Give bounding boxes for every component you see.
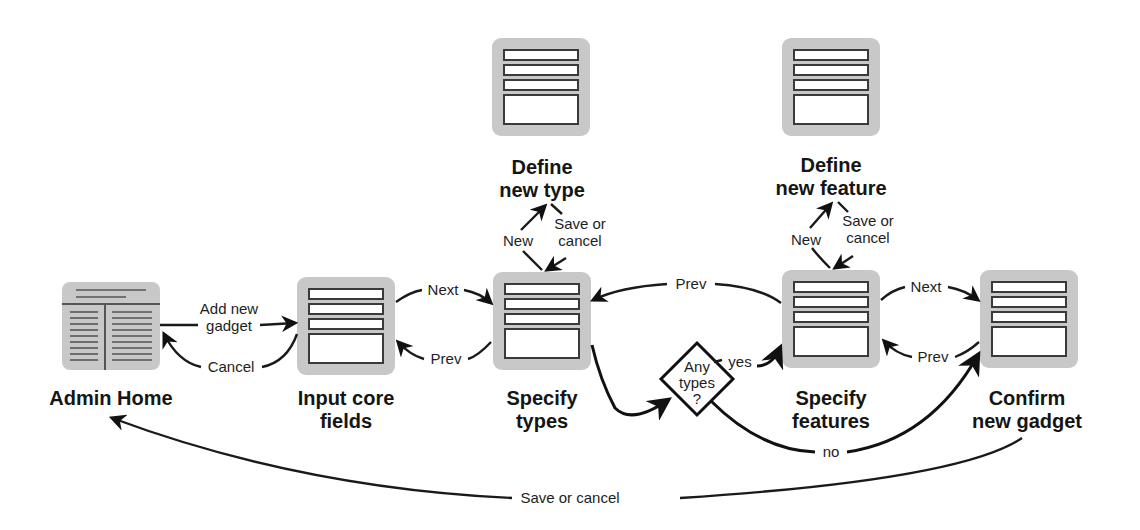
decision-label-line1: Any (684, 358, 710, 375)
edge-next-1: Next (396, 281, 491, 303)
edge-label: Next (911, 278, 943, 295)
node-define-new-type: Define new type (492, 38, 590, 201)
edge-label: Add new (200, 300, 259, 317)
edge-label: Prev (676, 275, 707, 292)
form-icon (980, 270, 1078, 368)
flow-diagram: Admin Home Input core fields Specify typ… (0, 0, 1140, 530)
edge-label: Prev (918, 348, 949, 365)
node-title-line2: fields (320, 410, 372, 432)
edge-label: Next (428, 281, 460, 298)
node-title-line1: Input core (298, 387, 395, 409)
edge-label: New (503, 232, 533, 249)
edge-label: Save or (842, 212, 894, 229)
edge-prev-2: Prev (884, 341, 979, 365)
edge-next-2: Next (881, 278, 978, 300)
node-title-line2: new gadget (972, 410, 1082, 432)
form-icon (493, 272, 591, 370)
node-title-line1: Specify (795, 387, 867, 409)
node-title-line1: Specify (506, 387, 578, 409)
node-title-line1: Confirm (989, 387, 1066, 409)
form-icon (492, 38, 590, 136)
edge-label: Prev (431, 350, 462, 367)
edge-label: Save or (554, 215, 606, 232)
edge-types-to-decision (592, 345, 668, 415)
node-title: Admin Home (49, 387, 172, 409)
edge-label: Save or cancel (520, 489, 619, 506)
edge-label: Cancel (208, 358, 255, 375)
edge-label: gadget (206, 317, 253, 334)
form-icon (782, 38, 880, 136)
edge-label: New (791, 231, 821, 248)
edge-prev-features-to-types: Prev (593, 275, 781, 303)
edge-new-feature: New (791, 204, 831, 268)
edge-cancel: Cancel (164, 334, 297, 375)
edge-add-new-gadget: Add new gadget (160, 300, 295, 334)
page-layout-icon (62, 282, 160, 370)
node-confirm-new-gadget: Confirm new gadget (972, 270, 1082, 432)
edge-prev-1: Prev (398, 342, 491, 367)
form-icon (782, 270, 880, 368)
node-title-line1: Define (511, 156, 572, 178)
node-specify-types: Specify types (493, 272, 591, 432)
decision-any-types: Any types ? (661, 343, 733, 415)
node-title-line2: features (792, 410, 870, 432)
node-input-core-fields: Input core fields (297, 277, 395, 432)
node-title-line1: Define (800, 154, 861, 176)
edge-yes: yes (714, 348, 780, 370)
node-define-new-feature: Define new feature (775, 38, 886, 199)
edge-new-type: New (503, 206, 545, 270)
edge-label: cancel (558, 232, 601, 249)
node-title-line2: types (516, 410, 568, 432)
decision-label-line3: ? (693, 390, 701, 407)
form-icon (297, 277, 395, 375)
node-title-line2: new type (499, 179, 585, 201)
node-admin-home: Admin Home (49, 282, 172, 409)
node-title-line2: new feature (775, 177, 886, 199)
decision-label-line2: types (679, 374, 715, 391)
edge-save-cancel-type: Save or cancel (547, 204, 606, 270)
node-specify-features: Specify features (782, 270, 880, 432)
edge-label: no (823, 443, 840, 460)
edge-label: cancel (846, 229, 889, 246)
edge-save-cancel-feature: Save or cancel (835, 202, 894, 268)
edge-label: yes (728, 353, 751, 370)
